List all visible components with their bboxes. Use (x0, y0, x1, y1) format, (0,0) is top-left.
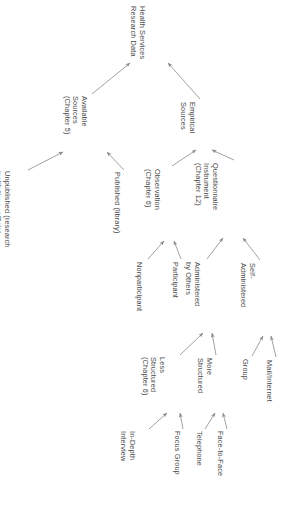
edge-questionnaire-to-empirical (212, 150, 234, 160)
node-questionnaire: QuestionnaireInstrument(Chapter 12) (193, 163, 219, 210)
node-label-line: Health Services (137, 6, 146, 59)
edge-mail-to-self-admin (271, 336, 276, 357)
node-label-line: Sources (71, 96, 80, 134)
node-label-line: More (204, 358, 213, 393)
edge-group-to-self-admin (252, 336, 263, 356)
node-mail-internet: Mail/Internet (264, 360, 273, 402)
edge-nonparticipant-to-observation (148, 241, 164, 259)
edge-participant-to-observation (174, 241, 181, 259)
edge-layer (0, 0, 305, 513)
node-label-line: Available (79, 96, 88, 134)
edge-indepth-to-less (149, 413, 167, 429)
node-label-line: Interview (119, 431, 128, 461)
node-unpublished: Unpublished (researchinstitutions, offic… (0, 171, 11, 255)
node-label-line: Observation (152, 169, 161, 210)
node-available: AvailableSources(Chapter 5) (62, 96, 88, 134)
node-label-line: Self- (247, 263, 256, 307)
node-label-line: Nonparticipant (134, 262, 143, 311)
edge-self-admin-to-quest (243, 238, 260, 260)
node-label-line: (Chapter 6) (144, 169, 153, 210)
node-label-line: In-Depth (127, 431, 136, 461)
edge-face-to-more (223, 413, 227, 429)
node-label-line: Administered (239, 263, 248, 307)
edge-available-to-root (92, 63, 130, 94)
node-participant: Participant (170, 262, 179, 298)
node-label-line: Participant (170, 262, 179, 298)
node-root: Health ServicesResearch Data (129, 6, 146, 59)
node-label-line: Published (library) (112, 172, 121, 233)
node-label-line: Administered (192, 262, 201, 306)
node-label-line: (Chapter 12) (193, 163, 202, 210)
node-more-structured: MoreStructured (196, 358, 213, 393)
edge-more-to-admin-others (212, 333, 216, 355)
node-label-line: Questionnaire (210, 163, 219, 210)
edge-published-to-available (107, 152, 124, 170)
node-published: Published (library) (112, 172, 121, 233)
node-label-line: (Chapter 5) (62, 96, 71, 134)
node-label-line: Group (240, 359, 249, 380)
hierarchy-diagram: Health ServicesResearch DataAvailableSou… (0, 0, 305, 513)
node-empirical: EmpiricalSources (179, 102, 196, 133)
edge-focus-to-less (180, 413, 183, 429)
node-less-structured: LessStructured(Chapter 6) (140, 357, 166, 395)
node-in-depth: In-DepthInterview (119, 431, 136, 461)
node-face-to-face: Face-to-Face (215, 431, 224, 476)
node-observation: Observation(Chapter 6) (144, 169, 161, 210)
node-self-admin: Self-Administered (239, 263, 256, 307)
edge-less-to-admin-others (180, 333, 203, 355)
node-label-line: Less (157, 357, 166, 395)
node-label-line: Face-to-Face (215, 431, 224, 476)
node-label-line: Research Data (129, 6, 138, 59)
edge-telephone-to-more (205, 413, 215, 429)
node-label-line: by Others (184, 262, 193, 306)
node-label-line: Focus Group (172, 431, 181, 475)
node-label-line: Mail/Internet (264, 360, 273, 402)
node-label-line: Structured (196, 358, 205, 393)
node-telephone: Telephone (194, 431, 203, 466)
edge-admin-others-to-quest (207, 238, 223, 259)
node-label-line: (Chapter 6) (140, 357, 149, 395)
node-label-line: Structured (149, 357, 158, 395)
node-label-line: Telephone (194, 431, 203, 466)
node-nonparticipant: Nonparticipant (134, 262, 143, 311)
edge-empirical-to-root (168, 63, 200, 99)
node-focus-group: Focus Group (172, 431, 181, 475)
node-admin-others: Administeredby Others (184, 262, 201, 306)
node-label-line: Empirical (187, 102, 196, 133)
node-label-line: Sources (179, 102, 188, 133)
node-label-line: Instrument (202, 163, 211, 210)
node-group: Group (240, 359, 249, 380)
edge-unpublished-to-available (28, 152, 63, 170)
node-label-line: Unpublished (research (2, 171, 11, 255)
